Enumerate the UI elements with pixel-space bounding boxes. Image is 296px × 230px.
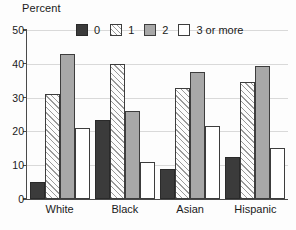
- legend-label: 2: [162, 24, 168, 36]
- bar-group: [158, 30, 223, 199]
- bar: [110, 64, 125, 199]
- bar: [75, 128, 90, 199]
- y-tick-label: 10: [12, 160, 24, 171]
- bar: [240, 82, 255, 199]
- bar: [140, 162, 155, 199]
- bar-group: [223, 30, 288, 199]
- bar: [95, 120, 110, 199]
- y-tick-label: 20: [12, 126, 24, 137]
- y-axis-title: Percent: [22, 2, 61, 14]
- bar: [45, 94, 60, 199]
- bar: [60, 54, 75, 199]
- x-axis-label-black: Black: [92, 203, 157, 215]
- x-axis-label-hispanic: Hispanic: [223, 203, 288, 215]
- legend-label: 1: [128, 24, 134, 36]
- plot-area: [27, 30, 288, 199]
- y-tick-label: 0: [18, 194, 24, 205]
- legend-label: 0: [94, 24, 100, 36]
- bar-chart: Percent 50403020100 WhiteBlackAsianHispa…: [0, 0, 296, 230]
- bar-group: [27, 30, 92, 199]
- x-axis-label-white: White: [27, 203, 92, 215]
- x-axis-label-asian: Asian: [158, 203, 223, 215]
- legend: 0123 or more: [76, 24, 253, 36]
- y-tick-label: 40: [12, 59, 24, 70]
- bar: [175, 88, 190, 200]
- bar: [225, 157, 240, 199]
- legend-item[interactable]: 3 or more: [178, 24, 243, 36]
- legend-item[interactable]: 0: [76, 24, 100, 36]
- legend-item[interactable]: 2: [144, 24, 168, 36]
- legend-item[interactable]: 1: [110, 24, 134, 36]
- gray-solid-swatch: [144, 24, 156, 36]
- y-tick-label: 30: [12, 92, 24, 103]
- bar: [270, 148, 285, 199]
- bar: [30, 182, 45, 199]
- dark-solid-swatch: [76, 24, 88, 36]
- white-solid-swatch: [178, 24, 190, 36]
- bar: [125, 111, 140, 199]
- bar: [205, 126, 220, 199]
- bar: [255, 66, 270, 200]
- legend-label: 3 or more: [196, 24, 243, 36]
- y-tick-label: 50: [12, 25, 24, 36]
- bar: [190, 72, 205, 199]
- bar-group: [92, 30, 157, 199]
- diagonal-hatch-swatch: [110, 24, 122, 36]
- bar: [160, 169, 175, 199]
